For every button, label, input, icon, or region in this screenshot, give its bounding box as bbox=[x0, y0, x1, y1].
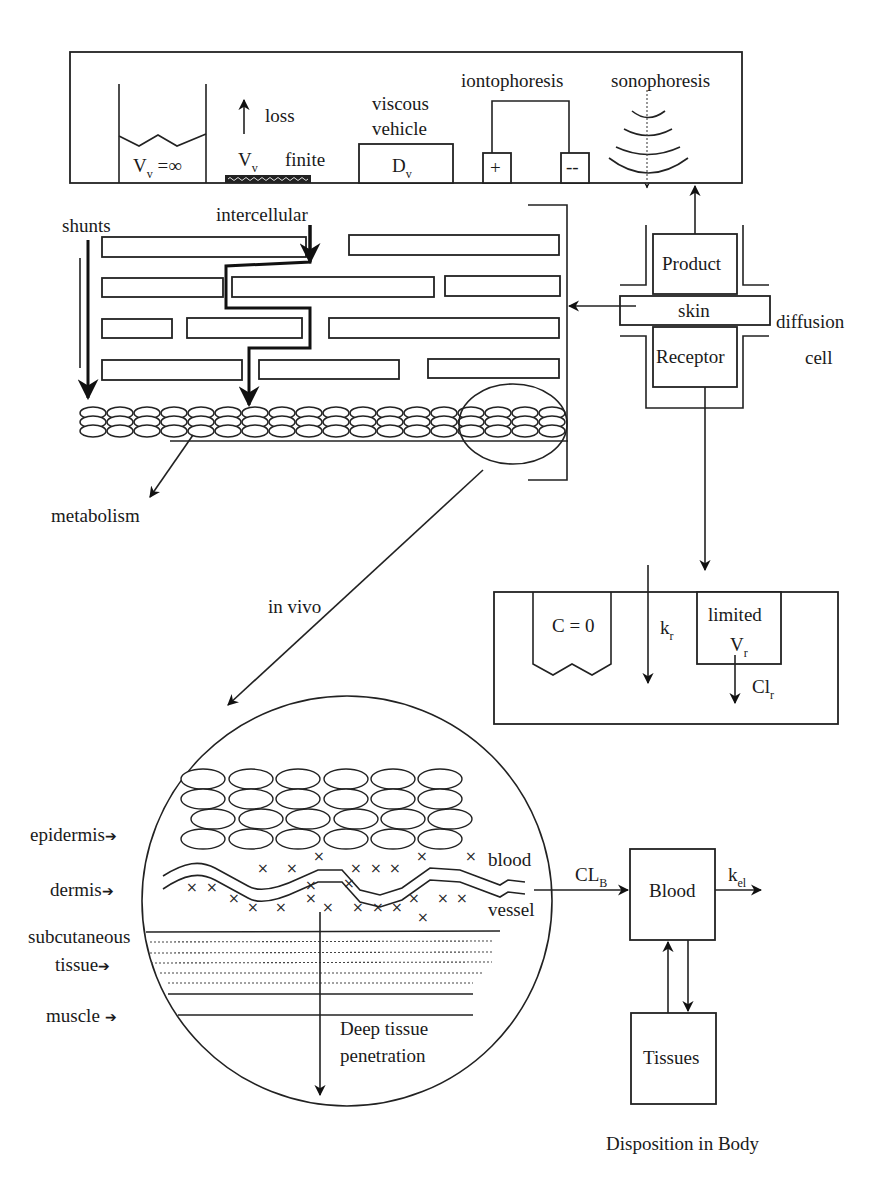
svg-text:limited: limited bbox=[708, 604, 762, 625]
drug-molecules: ××× ××× ×× ×× ×× ××× ×× ××× ××× × bbox=[186, 848, 477, 925]
svg-text:×: × bbox=[286, 860, 298, 876]
svg-text:Product: Product bbox=[662, 253, 722, 274]
svg-text:Tissues: Tissues bbox=[643, 1047, 699, 1068]
svg-text:sonophoresis: sonophoresis bbox=[611, 70, 710, 91]
corneocyte-bricks bbox=[102, 235, 560, 380]
svg-text:×: × bbox=[313, 848, 325, 864]
svg-text:kel: kel bbox=[728, 864, 747, 890]
svg-text:×: × bbox=[352, 899, 364, 915]
svg-text:×: × bbox=[437, 890, 449, 906]
svg-text:×: × bbox=[456, 890, 468, 906]
svg-text:vehicle: vehicle bbox=[372, 118, 427, 139]
diffusion-cell: Product skin Receptor diffusion cell bbox=[569, 186, 845, 570]
vessel-label: vessel bbox=[488, 899, 534, 920]
svg-text:Receptor: Receptor bbox=[656, 346, 725, 367]
svg-text:×: × bbox=[186, 879, 198, 895]
svg-text:tissue➔: tissue➔ bbox=[55, 954, 110, 975]
svg-text:C = 0: C = 0 bbox=[552, 615, 594, 636]
svg-text:×: × bbox=[350, 860, 362, 876]
svg-text:Blood: Blood bbox=[649, 880, 696, 901]
svg-text:×: × bbox=[417, 909, 429, 925]
svg-text:Deep tissue: Deep tissue bbox=[340, 1018, 428, 1039]
svg-text:epidermis➔: epidermis➔ bbox=[30, 824, 117, 845]
svg-text:iontophoresis: iontophoresis bbox=[461, 70, 563, 91]
svg-text:×: × bbox=[322, 899, 334, 915]
svg-text:×: × bbox=[391, 899, 403, 915]
metabolism-arrow-icon bbox=[150, 435, 193, 497]
svg-text:×: × bbox=[247, 899, 259, 915]
in-vivo-label: in vivo bbox=[268, 596, 321, 617]
svg-text:×: × bbox=[343, 875, 355, 891]
intercellular-label: intercellular bbox=[216, 204, 308, 225]
svg-text:diffusion: diffusion bbox=[776, 311, 845, 332]
loss-label: loss bbox=[265, 105, 295, 126]
svg-text:dermis➔: dermis➔ bbox=[50, 879, 114, 900]
svg-text:×: × bbox=[257, 860, 269, 876]
svg-text:×: × bbox=[408, 890, 420, 906]
in-vivo-section: ××× ××× ×× ×× ×× ××× ×× ××× ××× × blood … bbox=[28, 696, 552, 1106]
svg-text:--: -- bbox=[566, 156, 579, 177]
layer-labels: epidermis➔ dermis➔ subcutaneous tissue➔ … bbox=[28, 824, 130, 1026]
disposition: CLB Blood kel Tissues Disposition in Bod… bbox=[534, 849, 761, 1154]
skin-absorption-diagram: Vv =∞ loss Vv finite viscous vehicle Dv … bbox=[0, 0, 893, 1195]
metabolism-label: metabolism bbox=[51, 505, 140, 526]
svg-text:×: × bbox=[389, 860, 401, 876]
svg-text:CLB: CLB bbox=[575, 864, 607, 890]
svg-text:viscous: viscous bbox=[372, 93, 429, 114]
svg-text:×: × bbox=[370, 860, 382, 876]
viable-epidermis-cells bbox=[80, 407, 568, 441]
finite-label: finite bbox=[285, 149, 325, 170]
svg-text:×: × bbox=[228, 890, 240, 906]
vehicle-panel: Vv =∞ loss Vv finite viscous vehicle Dv … bbox=[70, 52, 742, 188]
svg-text:×: × bbox=[416, 848, 428, 864]
svg-text:skin: skin bbox=[678, 300, 710, 321]
subcutaneous-layers bbox=[146, 931, 500, 1015]
svg-text:×: × bbox=[372, 899, 384, 915]
disposition-caption: Disposition in Body bbox=[606, 1133, 760, 1154]
svg-text:penetration: penetration bbox=[340, 1045, 426, 1066]
svg-text:×: × bbox=[275, 899, 287, 915]
svg-text:×: × bbox=[206, 879, 218, 895]
svg-text:subcutaneous: subcutaneous bbox=[28, 926, 130, 947]
shunts-label: shunts bbox=[62, 215, 111, 236]
svg-text:muscle ➔: muscle ➔ bbox=[46, 1005, 117, 1026]
receptor-panel-frame bbox=[494, 592, 838, 724]
svg-text:×: × bbox=[465, 848, 477, 864]
receptor-panel: C = 0 kr limited Vr Clr bbox=[494, 565, 838, 724]
svg-text:+: + bbox=[490, 157, 501, 178]
svg-text:cell: cell bbox=[805, 347, 832, 368]
blood-label: blood bbox=[488, 849, 532, 870]
svg-text:×: × bbox=[305, 890, 317, 906]
epidermis-cells bbox=[181, 769, 472, 849]
in-vivo-arrow-icon bbox=[228, 470, 483, 705]
stratum-corneum: shunts intercellular bbox=[51, 204, 568, 705]
